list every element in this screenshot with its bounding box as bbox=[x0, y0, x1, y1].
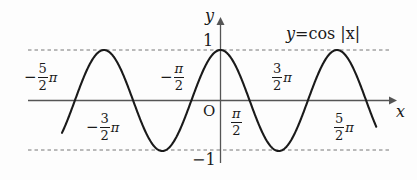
fraction: 3 2 bbox=[272, 62, 282, 92]
x-tick-label-neg-pi-2: − π 2 bbox=[160, 62, 184, 92]
fraction: 5 2 bbox=[334, 112, 344, 142]
pi-symbol: π bbox=[111, 121, 120, 134]
minus-sign: − bbox=[24, 70, 37, 85]
x-tick-label-pi-2: π 2 bbox=[231, 107, 242, 137]
equation-label: y=cos |x| bbox=[286, 26, 360, 42]
x-tick-label-5-2-pi: 5 2 π bbox=[334, 112, 354, 142]
equation-operator: = bbox=[295, 24, 308, 43]
equation-lhs: y bbox=[286, 24, 295, 43]
pi-symbol: π bbox=[345, 121, 354, 134]
fraction: 3 2 bbox=[100, 112, 110, 142]
y-axis-label: y bbox=[205, 8, 214, 24]
cosine-graph-figure: y x O 1 −1 y=cos |x| − 5 2 π − 3 2 bbox=[0, 0, 417, 180]
y-tick-label-negative-one: −1 bbox=[192, 152, 216, 168]
x-tick-label-neg-3-2-pi: − 3 2 π bbox=[86, 112, 119, 142]
pi-symbol: π bbox=[49, 71, 58, 84]
minus-sign: − bbox=[86, 120, 99, 135]
x-axis-label: x bbox=[396, 104, 405, 120]
y-axis-arrow-icon bbox=[217, 17, 225, 25]
y-tick-label-one: 1 bbox=[203, 33, 213, 49]
origin-label: O bbox=[203, 104, 215, 119]
x-tick-label-neg-5-2-pi: − 5 2 π bbox=[24, 62, 57, 92]
fraction: 5 2 bbox=[38, 62, 48, 92]
minus-sign: − bbox=[160, 70, 173, 85]
fraction: π 2 bbox=[231, 107, 242, 137]
x-tick-label-3-2-pi: 3 2 π bbox=[272, 62, 292, 92]
equation-rhs: cos |x| bbox=[308, 24, 360, 43]
pi-symbol: π bbox=[283, 71, 292, 84]
fraction: π 2 bbox=[174, 62, 185, 92]
